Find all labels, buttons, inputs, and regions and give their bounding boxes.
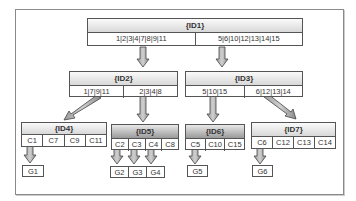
arrow-id1-id3 xyxy=(216,47,228,67)
cell-c15: C15 xyxy=(224,139,244,151)
node-id7: {ID7} C6 C12 C13 C14 xyxy=(251,122,336,149)
node-id5: {ID5} C2 C3 C4 C8 xyxy=(111,124,179,150)
cell-c8: C8 xyxy=(161,139,178,151)
cell-c12: C12 xyxy=(272,137,293,149)
node-id1-group-right: 5|6|10|12|13|14|15 xyxy=(195,33,303,45)
node-id6: {ID6} C5 C10 C15 xyxy=(185,124,245,150)
leaf-g1: G1 xyxy=(22,165,44,177)
node-id2-group-left: 1|7|9|11 xyxy=(70,86,123,98)
node-id7-title: {ID7} xyxy=(252,123,335,137)
arrow-id3-id6 xyxy=(207,95,219,122)
leaf-g3: G3 xyxy=(128,166,147,178)
node-id1-title: {ID1} xyxy=(88,19,302,33)
node-id2: {ID2} 1|7|9|11 2|3|4|8 xyxy=(69,71,178,97)
arrow-id2-id5 xyxy=(137,95,149,122)
cell-c3: C3 xyxy=(128,139,145,151)
leaf-g2: G2 xyxy=(110,166,129,178)
cell-c13: C13 xyxy=(293,137,314,149)
cell-c10: C10 xyxy=(205,139,225,151)
arrow-id2-id4 xyxy=(64,95,101,120)
node-id2-group-right: 2|3|4|8 xyxy=(123,86,177,98)
node-id3-group-right: 6|12|13|14 xyxy=(244,86,303,98)
node-id6-title: {ID6} xyxy=(186,125,244,139)
node-id4-title: {ID4} xyxy=(22,123,106,135)
node-id5-title: {ID5} xyxy=(112,125,178,139)
cell-c4: C4 xyxy=(145,139,162,151)
node-id3: {ID3} 5|10|15 6|12|13|14 xyxy=(185,71,303,97)
cell-c7: C7 xyxy=(42,135,63,147)
cell-c9: C9 xyxy=(64,135,85,147)
cell-c2: C2 xyxy=(112,139,128,151)
cell-c1: C1 xyxy=(22,135,42,147)
node-id4: {ID4} C1 C7 C9 C11 xyxy=(21,122,107,147)
node-id3-group-left: 5|10|15 xyxy=(186,86,244,98)
cell-c11: C11 xyxy=(85,135,106,147)
cell-c6: C6 xyxy=(252,137,272,149)
cell-c5: C5 xyxy=(186,139,205,151)
node-id1-group-left: 1|2|3|4|7|8|9|11 xyxy=(88,33,195,45)
leaf-g4: G4 xyxy=(146,166,165,178)
leaf-g5: G5 xyxy=(187,165,208,177)
arrow-id1-id2 xyxy=(137,47,149,67)
leaf-g6: G6 xyxy=(252,165,273,177)
node-id1: {ID1} 1|2|3|4|7|8|9|11 5|6|10|12|13|14|1… xyxy=(87,18,303,46)
node-id3-title: {ID3} xyxy=(186,72,302,86)
node-id2-title: {ID2} xyxy=(70,72,177,86)
cell-c14: C14 xyxy=(314,137,335,149)
